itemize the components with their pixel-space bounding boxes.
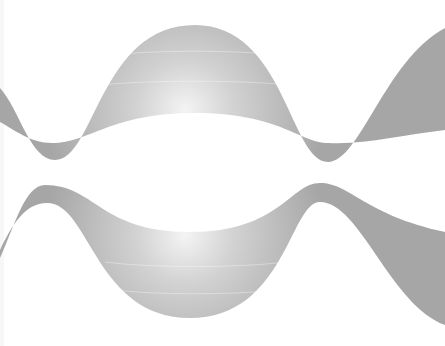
wave-bands-svg [0, 0, 445, 346]
lower-wave-band [0, 183, 445, 325]
upper-wave-band [0, 25, 445, 162]
wave-graphic-canvas [0, 0, 445, 346]
